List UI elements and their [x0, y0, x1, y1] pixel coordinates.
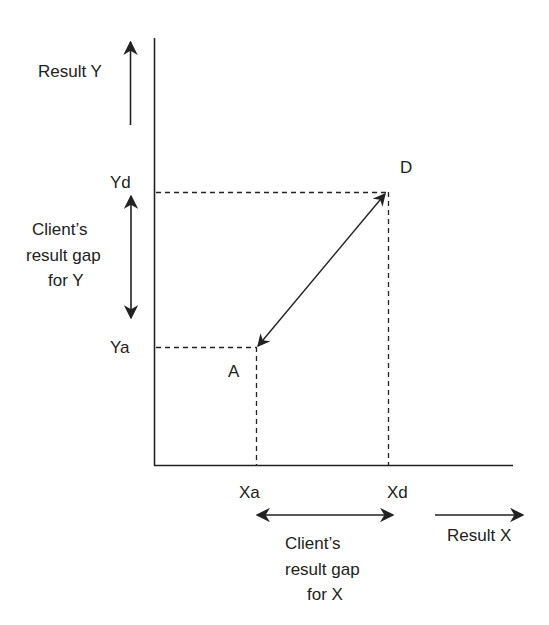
gap-y-line2: result gap: [26, 245, 126, 266]
gap-x-line1: Client’s: [285, 533, 395, 554]
yd-label: Yd: [110, 172, 131, 193]
gap-y-line3: for Y: [26, 270, 126, 291]
point-d-label: D: [400, 157, 412, 178]
xa-label: Xa: [239, 482, 260, 503]
gap-x-line2: result gap: [285, 559, 395, 580]
xd-label: Xd: [387, 482, 408, 503]
ya-label: Ya: [110, 337, 130, 358]
gap-y-line1: Client’s: [26, 219, 126, 240]
gap-x-label: Client’s result gap for X: [285, 533, 395, 605]
point-a-label: A: [228, 361, 239, 382]
result-y-label: Result Y: [38, 61, 102, 82]
a-to-d-double-arrow: [258, 194, 385, 346]
gap-y-label: Client’s result gap for Y: [26, 219, 126, 291]
gap-x-line3: for X: [285, 584, 395, 605]
result-x-label: Result X: [447, 525, 511, 546]
